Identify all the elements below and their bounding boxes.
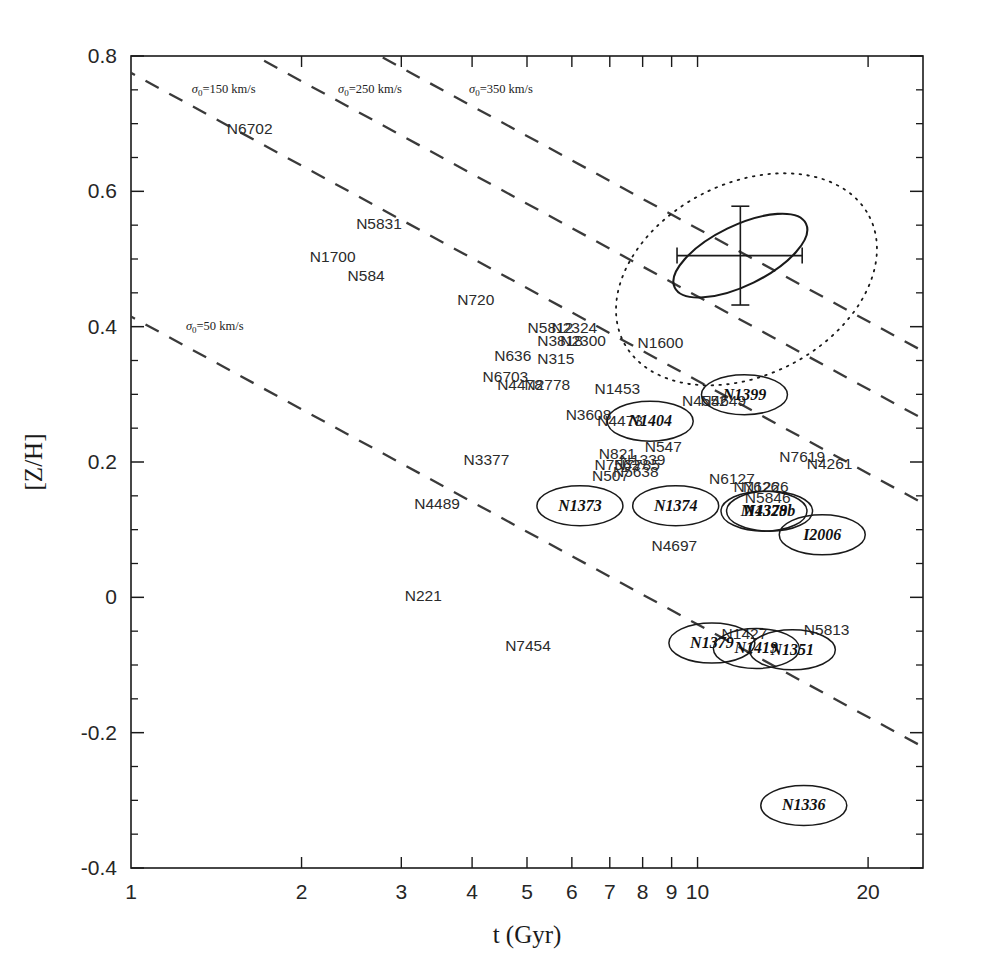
galaxy-marker-circled: I2006 [779, 515, 865, 555]
galaxy-label: N4697 [651, 537, 697, 554]
galaxy-marker-circled: N1374 [633, 486, 719, 526]
x-tick-label: 9 [666, 880, 678, 903]
galaxy-label: N3377 [464, 451, 510, 468]
galaxy-label: N1600 [638, 334, 684, 351]
y-axis-title: [Z/H] [20, 434, 47, 491]
x-tick-label: 1 [125, 880, 137, 903]
galaxy-marker-circled: N1373 [537, 486, 623, 526]
galaxy-label: N4261 [807, 455, 853, 472]
y-tick-label: 0.6 [88, 179, 117, 202]
galaxy-label: N2778 [524, 376, 570, 393]
x-tick-label: 8 [637, 880, 649, 903]
galaxy-label-italic: N1351 [770, 641, 815, 658]
galaxy-label: N221 [405, 587, 442, 604]
x-tick-label: 10 [686, 880, 709, 903]
y-tick-label: -0.4 [81, 856, 118, 879]
galaxy-label: N2300 [560, 332, 606, 349]
figure-canvas: 1234567891020 -0.4-0.200.20.40.60.8 σ0=5… [0, 0, 982, 975]
svg-text:σ0=150 km/s: σ0=150 km/s [192, 82, 256, 98]
sigma-line-label: σ0=50 km/s [186, 319, 244, 335]
galaxy-label-italic: N1373 [557, 497, 602, 514]
galaxy-label: N5813 [804, 621, 850, 638]
galaxy-label: N4489 [414, 495, 460, 512]
sigma-line-label: σ0=150 km/s [192, 82, 256, 98]
galaxy-label-italic: N1399 [722, 386, 767, 403]
galaxy-label: N1700 [310, 248, 356, 265]
galaxy-label: N720 [457, 291, 494, 308]
svg-text:σ0=50 km/s: σ0=50 km/s [186, 319, 244, 335]
sigma-line-label: σ0=350 km/s [469, 82, 533, 98]
sigma-line-label: σ0=250 km/s [338, 82, 402, 98]
svg-text:σ0=350 km/s: σ0=350 km/s [469, 82, 533, 98]
x-tick-label: 6 [566, 880, 578, 903]
galaxy-label: N5638 [613, 463, 659, 480]
y-tick-label: -0.2 [81, 721, 117, 744]
x-tick-label: 3 [395, 880, 407, 903]
galaxy-label: N315 [537, 350, 574, 367]
x-tick-label: 7 [604, 880, 616, 903]
galaxy-label-italic: N1374 [653, 497, 698, 514]
galaxy-label: N5831 [356, 215, 402, 232]
scatter-plot: 1234567891020 -0.4-0.200.20.40.60.8 σ0=5… [0, 0, 982, 975]
galaxy-labels-ellipse: N1399N1404N1373N1374M4328N1379bI2006N137… [537, 375, 865, 826]
galaxy-label-italic: N1404 [627, 412, 672, 429]
galaxy-marker-circled: N1336 [761, 785, 847, 825]
galaxy-label-italic: N1336 [781, 796, 826, 813]
x-tick-label: 2 [296, 880, 308, 903]
y-tick-label: 0.4 [88, 315, 118, 338]
galaxy-label-italic: N1379 [689, 634, 734, 651]
x-axis-title: t (Gyr) [493, 921, 562, 949]
y-tick-label: 0.8 [88, 44, 117, 67]
x-tick-label: 20 [856, 880, 879, 903]
galaxy-label: N1453 [595, 380, 641, 397]
svg-text:σ0=250 km/s: σ0=250 km/s [338, 82, 402, 98]
galaxy-label: N636 [494, 347, 531, 364]
x-tick-label: 5 [521, 880, 533, 903]
galaxy-label: N584 [348, 267, 385, 284]
y-tick-label: 0 [105, 585, 117, 608]
galaxy-label-italic: N1379b [743, 502, 796, 519]
x-tick-label: 4 [466, 880, 478, 903]
galaxy-label: N7454 [505, 637, 551, 654]
galaxy-label: N6702 [227, 120, 273, 137]
y-tick-label: 0.2 [88, 450, 117, 473]
error-ellipse-marker [662, 197, 820, 315]
galaxy-label-italic: I2006 [802, 526, 841, 543]
